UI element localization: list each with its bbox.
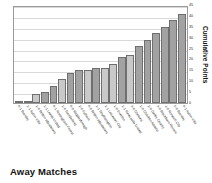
x-tick: 1-1 Southampton	[92, 105, 101, 160]
bar	[67, 73, 75, 103]
bar	[15, 101, 23, 103]
bar	[101, 68, 109, 103]
bar	[24, 101, 32, 103]
y-axis-title-text: Cumulative Points	[202, 26, 209, 83]
bar	[118, 57, 126, 103]
chart-figure: 051015202530354045 Cumulative Points 0-1…	[0, 0, 212, 183]
bar	[126, 55, 134, 103]
y-axis-title: Cumulative Points	[199, 6, 211, 104]
x-axis-labels: 0-1 Burnley1-1 Aston Villa1-0 Bolton Wan…	[13, 105, 188, 160]
x-tick: 0-1 Burnley	[14, 105, 23, 160]
x-tick: 0-1 Nottingham Forest	[49, 105, 58, 160]
bar	[41, 92, 49, 103]
x-tick: 4-0 Norwich City	[161, 105, 170, 160]
bar	[58, 79, 66, 103]
x-tick: 2-0 Fulham	[75, 105, 84, 160]
y-tick-label: 40	[189, 15, 193, 19]
y-tick-label: 0	[189, 102, 191, 106]
x-tick: 0-0 Bolton Wanderers	[83, 105, 92, 160]
plot-area	[13, 6, 188, 104]
x-tick: 1-0 Sunderland	[57, 105, 66, 160]
x-tick-label: 0-1 Aston Villa	[181, 105, 197, 126]
bar	[135, 46, 143, 103]
x-tick: 0-1 Aston Villa	[178, 105, 187, 160]
bar	[178, 14, 186, 103]
x-tick: 0-0 Middlesbrough	[66, 105, 75, 160]
chart-caption: Away Matches	[10, 166, 77, 177]
bar	[152, 33, 160, 103]
y-tick-label: 20	[189, 59, 193, 63]
x-tick: 3-0 Chelsea	[127, 105, 136, 160]
x-tick: 1-0 Charlton Athletic	[135, 105, 144, 160]
bar	[161, 27, 169, 103]
x-tick: 1-1 Newcastle United	[118, 105, 127, 160]
bar	[169, 20, 177, 103]
y-tick-label: 35	[189, 26, 193, 30]
bar	[84, 70, 92, 103]
bar	[109, 64, 117, 103]
x-tick: 1-0 Everton	[109, 105, 118, 160]
y-tick-label: 45	[189, 4, 193, 8]
bar-series	[14, 7, 187, 103]
bar	[32, 94, 40, 103]
bar	[144, 40, 152, 103]
x-tick: 2-0 Derby County	[144, 105, 153, 160]
x-tick: 1-0 Bolton Wanderers	[31, 105, 40, 160]
bar	[75, 70, 83, 103]
x-tick: 1-1 Aston Villa	[23, 105, 32, 160]
x-tick: 1-1 Leeds United	[40, 105, 49, 160]
x-tick: 3-0 Blackburn Rovers	[153, 105, 162, 160]
y-tick-label: 15	[189, 70, 193, 74]
y-tick-label: 10	[189, 80, 193, 84]
bar	[50, 86, 58, 103]
x-tick: 5-0 Burnley	[170, 105, 179, 160]
bar	[92, 68, 100, 103]
y-tick-label: 5	[189, 91, 191, 95]
y-tick-label: 30	[189, 37, 193, 41]
y-tick-label: 25	[189, 48, 193, 52]
x-tick: 1-1 Leicester City	[101, 105, 110, 160]
